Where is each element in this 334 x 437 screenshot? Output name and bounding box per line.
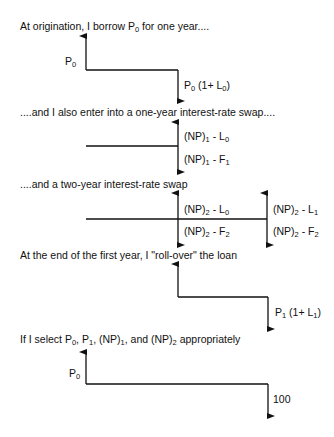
label-np2-l1: (NP)2 - L1 (273, 203, 318, 215)
caption-select-appropriately: If I select P0, P1, (NP)1, and (NP)2 app… (20, 333, 240, 345)
caption-two-year-swap: ....and a two-year interest-rate swap (20, 178, 188, 190)
label-subscript: 2 (226, 230, 230, 239)
label-inflow-p0-final: P0 (69, 367, 80, 379)
label-text: (NP) (273, 225, 295, 237)
label-text: (NP) (273, 203, 295, 215)
label-text: (NP) (184, 225, 206, 237)
label-text: - L (210, 203, 225, 215)
caption-text: , and (NP) (125, 333, 173, 345)
label-text: - F (210, 225, 226, 237)
diagram-3-lines (86, 193, 267, 245)
label-text: (NP) (184, 203, 206, 215)
label-np2-l0: (NP)2 - L0 (184, 203, 229, 215)
label-outflow-p1-1-l1: P1 (1+ L1) (275, 306, 321, 318)
diagram-4-lines (178, 264, 268, 329)
diagram-5-lines (86, 352, 268, 416)
label-text: (NP) (184, 130, 206, 142)
caption-text: for one year.... (139, 20, 209, 32)
label-text: - F (299, 225, 315, 237)
caption-text: , P (76, 333, 89, 345)
label-text: P (69, 367, 76, 379)
diagram-1-lines (86, 36, 178, 101)
label-text: (1+ L (286, 306, 313, 318)
label-subscript: 0 (225, 208, 229, 217)
label-text: - L (299, 203, 314, 215)
label-subscript: 0 (76, 372, 80, 381)
label-text: - L (210, 130, 225, 142)
caption-text: At origination, I borrow P (20, 20, 135, 32)
cash-flow-lines (0, 0, 334, 437)
label-subscript: 1 (314, 208, 318, 217)
label-text: (NP) (184, 153, 206, 165)
label-subscript: 0 (225, 135, 229, 144)
label-text: - F (210, 153, 226, 165)
caption-text: appropriately (177, 333, 241, 345)
label-outflow-100: 100 (273, 393, 291, 405)
caption-text: If I select P (20, 333, 72, 345)
label-np1-l0: (NP)1 - L0 (184, 130, 229, 142)
label-np2-f2-second: (NP)2 - F2 (273, 225, 319, 237)
caption-text: , (NP) (93, 333, 120, 345)
label-text: ) (318, 306, 322, 318)
label-text: P (184, 79, 191, 91)
label-text: P (65, 55, 72, 67)
label-np1-f1: (NP)1 - F1 (184, 153, 230, 165)
caption-one-year-swap: ....and I also enter into a one-year int… (20, 106, 275, 118)
label-inflow-p0: P0 (65, 55, 76, 67)
label-subscript: 0 (72, 60, 76, 69)
label-subscript: 2 (315, 230, 319, 239)
caption-origination: At origination, I borrow P0 for one year… (20, 20, 209, 32)
label-text: ) (227, 79, 231, 91)
caption-roll-over: At the end of the first year, I "roll-ov… (20, 249, 237, 261)
label-text: P (275, 306, 282, 318)
diagram-2-lines (86, 122, 178, 172)
label-np2-f2-first: (NP)2 - F2 (184, 225, 230, 237)
label-outflow-p0-1-l0: P0 (1+ L0) (184, 79, 230, 91)
label-subscript: 1 (226, 158, 230, 167)
label-text: (1+ L (195, 79, 222, 91)
